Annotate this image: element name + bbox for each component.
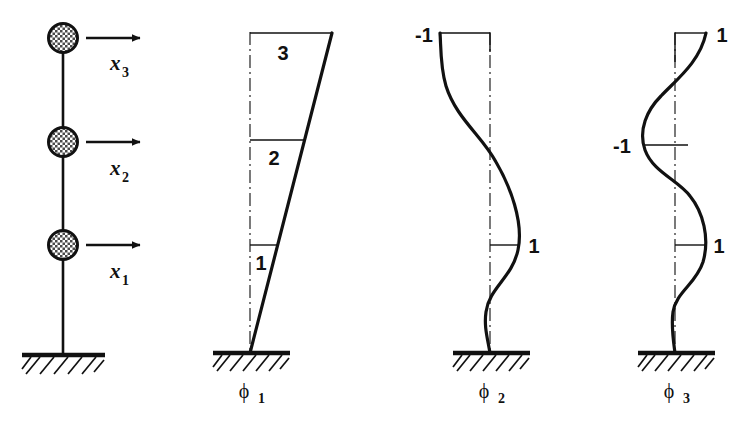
mode-2-value-top: -1 (415, 24, 433, 46)
mode-1-phi-label: ϕ (239, 380, 250, 403)
mode-1-value-3: 3 (277, 42, 288, 64)
mass-node-3 (49, 24, 78, 53)
fixed-support-mode-3 (638, 353, 715, 371)
mode-2-phi-label: ϕ (479, 380, 490, 403)
dof-label-x1: x (109, 259, 121, 283)
mode-1-phi-subscript: 1 (258, 391, 265, 406)
mode-3-value-lower-mid: 1 (713, 235, 724, 257)
dof-subscript-3: 3 (122, 65, 129, 80)
mode-3-deflection-curve (643, 33, 706, 353)
mass-node-2 (49, 128, 78, 157)
mode-1-panel: 3 2 1 ϕ 1 (213, 32, 332, 406)
fixed-support-mode-1 (213, 353, 290, 371)
mode-2-value-mid: 1 (528, 235, 539, 257)
mode-3-value-upper-mid: -1 (613, 135, 631, 157)
structure-panel: x 3 x 2 x 1 (22, 24, 140, 375)
fixed-support-mode-2 (453, 353, 530, 371)
figure-canvas: x 3 x 2 x 1 (0, 0, 740, 425)
dof-label-x3: x (109, 51, 121, 75)
mode-shape-diagram: x 3 x 2 x 1 (0, 0, 740, 425)
dof-subscript-1: 1 (122, 273, 129, 288)
mode-3-phi-label: ϕ (664, 380, 675, 403)
mode-3-phi-subscript: 3 (683, 391, 690, 406)
mass-node-1 (49, 231, 78, 260)
dof-subscript-2: 2 (122, 170, 129, 185)
fixed-support-structure (22, 355, 105, 374)
mode-2-phi-subscript: 2 (498, 391, 505, 406)
mode-3-value-top: 1 (716, 24, 727, 46)
dof-label-x2: x (109, 156, 121, 180)
mode-1-deflection-curve (250, 33, 332, 353)
mode-2-deflection-curve (440, 33, 519, 353)
mode-3-panel: 1 -1 1 ϕ 3 (613, 24, 727, 406)
mode-1-value-2: 2 (268, 147, 279, 169)
mode-1-value-1: 1 (255, 252, 266, 274)
mode-2-panel: -1 1 ϕ 2 (415, 24, 539, 406)
